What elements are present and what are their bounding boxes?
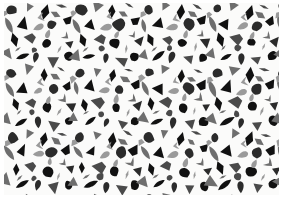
page-description: Seamless repeating pattern of scattered … (0, 16, 1, 17)
pattern-canvas: Abstract Terrazzo Confetti Pattern Seaml… (0, 0, 282, 203)
pattern-svg (4, 3, 279, 195)
pattern-surface (4, 3, 279, 195)
page-title: Abstract Terrazzo Confetti Pattern (0, 21, 1, 22)
